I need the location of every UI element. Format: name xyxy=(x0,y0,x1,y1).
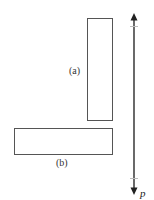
axis-label-p: p xyxy=(139,187,146,199)
arrow-down-icon xyxy=(131,188,138,196)
label-b: (b) xyxy=(56,157,68,169)
rectangle-b xyxy=(15,129,113,155)
rectangle-a xyxy=(88,19,113,121)
arrow-up-icon xyxy=(131,13,138,21)
label-a: (a) xyxy=(69,65,80,77)
diagram-canvas: (a) (b) p xyxy=(0,0,154,200)
polarization-axis xyxy=(130,13,138,195)
